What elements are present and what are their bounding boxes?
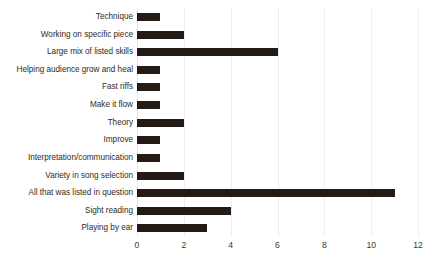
- bar[interactable]: [137, 66, 160, 74]
- bar-rows: [137, 8, 418, 237]
- gridline-12: [418, 8, 419, 237]
- bar-row[interactable]: [137, 43, 418, 61]
- bar-row[interactable]: [137, 96, 418, 114]
- bar-row[interactable]: [137, 114, 418, 132]
- bar-row[interactable]: [137, 8, 418, 26]
- x-tick-label: 6: [275, 239, 280, 251]
- category-label: All that was listed in question: [0, 184, 133, 202]
- x-tick-label: 2: [181, 239, 186, 251]
- category-label: Technique: [0, 8, 133, 26]
- bar[interactable]: [137, 101, 160, 109]
- category-label: Fast riffs: [0, 78, 133, 96]
- category-label: Theory: [0, 114, 133, 132]
- category-axis-labels: TechniqueWorking on specific pieceLarge …: [0, 8, 133, 237]
- category-label: Helping audience grow and heal: [0, 61, 133, 79]
- bar[interactable]: [137, 172, 184, 180]
- category-label: Interpretation/communication: [0, 149, 133, 167]
- category-label: Improve: [0, 131, 133, 149]
- bar-row[interactable]: [137, 61, 418, 79]
- x-tick-label: 4: [228, 239, 233, 251]
- x-tick-label: 10: [366, 239, 376, 251]
- bar[interactable]: [137, 119, 184, 127]
- bar-row[interactable]: [137, 219, 418, 237]
- category-label: Playing by ear: [0, 219, 133, 237]
- bar[interactable]: [137, 136, 160, 144]
- bar[interactable]: [137, 83, 160, 91]
- bar[interactable]: [137, 31, 184, 39]
- bar-row[interactable]: [137, 131, 418, 149]
- bar[interactable]: [137, 207, 231, 215]
- bar[interactable]: [137, 154, 160, 162]
- category-label: Large mix of listed skills: [0, 43, 133, 61]
- bar[interactable]: [137, 48, 278, 56]
- bar-row[interactable]: [137, 184, 418, 202]
- x-tick-label: 0: [135, 239, 140, 251]
- bar-row[interactable]: [137, 167, 418, 185]
- x-axis: 024681012: [137, 239, 418, 255]
- bar[interactable]: [137, 189, 395, 197]
- bar-row[interactable]: [137, 202, 418, 220]
- bar-row[interactable]: [137, 26, 418, 44]
- bar[interactable]: [137, 13, 160, 21]
- x-tick-label: 12: [413, 239, 423, 251]
- bar[interactable]: [137, 224, 207, 232]
- category-label: Make it flow: [0, 96, 133, 114]
- x-tick-label: 8: [322, 239, 327, 251]
- category-label: Variety in song selection: [0, 167, 133, 185]
- bar-row[interactable]: [137, 78, 418, 96]
- chart-title: [0, 0, 426, 8]
- category-label: Working on specific piece: [0, 26, 133, 44]
- horizontal-bar-chart: TechniqueWorking on specific pieceLarge …: [0, 0, 426, 269]
- bar-row[interactable]: [137, 149, 418, 167]
- category-label: Sight reading: [0, 202, 133, 220]
- plot-area: [137, 8, 418, 237]
